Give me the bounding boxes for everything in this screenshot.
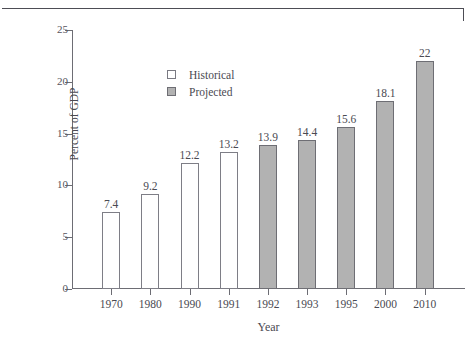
x-axis-tick-mark — [425, 289, 426, 295]
bar-1970: 7.4 — [102, 212, 120, 289]
x-axis-tick-label-2010: 2010 — [413, 297, 436, 311]
top-right-corner-rule — [463, 8, 464, 21]
legend-item-projected: Projected — [167, 83, 234, 100]
legend: Historical Projected — [167, 66, 234, 100]
bar-value-label: 15.6 — [336, 113, 356, 126]
x-axis-tick-label-1970: 1970 — [100, 297, 123, 311]
bar-value-label: 14.4 — [297, 126, 317, 139]
x-axis-tick-mark — [150, 289, 151, 295]
bar-value-label: 13.9 — [258, 131, 278, 144]
x-axis-tick-mark — [307, 289, 308, 295]
y-axis-tick-label: 15 — [57, 126, 68, 140]
y-axis-tick-label: 20 — [57, 74, 68, 88]
legend-item-historical: Historical — [167, 66, 234, 83]
y-axis-tick-label: 0 — [63, 281, 69, 295]
legend-swatch-projected-icon — [167, 87, 176, 96]
y-axis-tick-label: 25 — [57, 22, 68, 36]
x-axis-tick-label-1980: 1980 — [139, 297, 162, 311]
x-axis-title: Year — [72, 320, 465, 335]
bar-value-label: 7.4 — [104, 198, 118, 211]
bar-value-label: 22 — [419, 47, 431, 60]
bar-2010: 22 — [416, 61, 434, 289]
bar-1993: 14.4 — [298, 140, 316, 289]
x-axis-tick-mark — [385, 289, 386, 295]
bar-1995: 15.6 — [337, 127, 355, 289]
bar-1980: 9.2 — [141, 194, 159, 289]
y-axis-tick-label: 10 — [57, 177, 68, 191]
legend-label-projected: Projected — [189, 86, 232, 98]
x-axis-tick-label-1992: 1992 — [256, 297, 279, 311]
bar-value-label: 13.2 — [219, 138, 239, 151]
x-axis-tick-mark — [268, 289, 269, 295]
bar-value-label: 9.2 — [143, 180, 157, 193]
bar-2000: 18.1 — [376, 101, 394, 289]
x-axis-tick-label-2000: 2000 — [374, 297, 397, 311]
x-axis-tick-label-1995: 1995 — [335, 297, 358, 311]
bar-value-label: 12.2 — [179, 149, 199, 162]
x-axis-tick-label-1991: 1991 — [217, 297, 240, 311]
bar-value-label: 18.1 — [375, 87, 395, 100]
y-axis-tick-label: 5 — [63, 229, 69, 243]
x-axis-tick-label-1990: 1990 — [178, 297, 201, 311]
y-axis-title: Percent of GDP — [68, 64, 80, 184]
top-horizontal-rule — [2, 8, 464, 9]
bar-1990: 12.2 — [181, 163, 199, 289]
bar-1992: 13.9 — [259, 145, 277, 289]
x-axis-tick-mark — [190, 289, 191, 295]
plot-area: 0510152025 Percent of GDP 7.419709.21980… — [72, 30, 465, 289]
x-axis-tick-mark — [229, 289, 230, 295]
x-axis-tick-label-1993: 1993 — [296, 297, 319, 311]
x-axis-tick-mark — [346, 289, 347, 295]
figure: 0510152025 Percent of GDP 7.419709.21980… — [0, 0, 474, 340]
x-axis-tick-mark — [111, 289, 112, 295]
bar-1991: 13.2 — [220, 152, 238, 289]
legend-swatch-historical-icon — [167, 70, 176, 79]
legend-label-historical: Historical — [189, 69, 234, 81]
